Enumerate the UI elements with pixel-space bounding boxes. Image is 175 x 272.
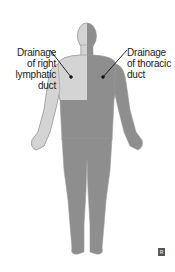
label-thoracic-duct: Drainage of thoracic duct (127, 47, 175, 80)
publisher-logo-icon: R (158, 248, 165, 256)
body-diagram (0, 0, 175, 272)
label-line: of thoracic (127, 58, 175, 69)
label-line: duct (127, 69, 175, 80)
label-line: lymphatic (6, 69, 56, 80)
label-line: of right (6, 58, 56, 69)
label-line: duct (6, 80, 56, 91)
label-line: Drainage (127, 47, 175, 58)
label-line: Drainage (6, 47, 56, 58)
label-right-lymphatic-duct: Drainage of right lymphatic duct (6, 47, 56, 91)
